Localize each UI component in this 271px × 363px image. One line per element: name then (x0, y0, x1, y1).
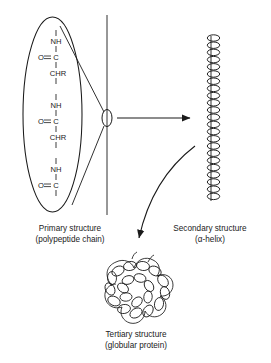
residue-label-oxygen: O (38, 117, 44, 126)
tertiary-structure-caption: Tertiary structure (globular protein) (72, 330, 200, 351)
residue-label: NH (51, 165, 62, 174)
primary-caption-line2: (polypeptide chain) (4, 235, 136, 246)
residue-label: NH (51, 101, 62, 110)
secondary-caption-line1: Secondary structure (173, 224, 246, 233)
residue-label: CHR (50, 133, 67, 142)
secondary-structure-caption: Secondary structure (α-helix) (152, 224, 268, 245)
tertiary-caption-line1: Tertiary structure (106, 330, 167, 339)
residue-label: CHR (50, 69, 67, 78)
residue-label: NH (51, 37, 62, 46)
globular-protein-shape (103, 252, 173, 323)
alpha-helix-coil (207, 35, 219, 201)
secondary-caption-line2: (α-helix) (152, 235, 268, 246)
residue-label-oxygen: O (38, 53, 44, 62)
residue-label-carbon: C (53, 117, 59, 126)
tertiary-caption-line2: (globular protein) (72, 341, 200, 352)
primary-caption-line1: Primary structure (39, 224, 101, 233)
residue-label-carbon: C (53, 181, 59, 190)
primary-structure-caption: Primary structure (polypeptide chain) (4, 224, 136, 245)
diagram-canvas: NH O C CHR NH O C CHR NH O C (0, 0, 271, 363)
residue-label-oxygen: O (38, 181, 44, 190)
residue-label-carbon: C (53, 53, 59, 62)
protein-structure-diagram: NH O C CHR NH O C CHR NH O C (0, 0, 271, 363)
